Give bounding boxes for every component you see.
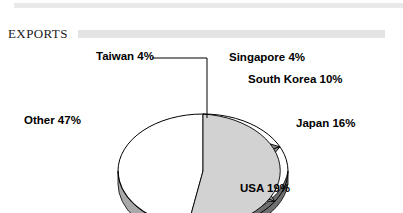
- leader-line-taiwan: [152, 58, 207, 118]
- slice-label-taiwan: Taiwan 4%: [96, 51, 154, 63]
- slice-label-other: Other 47%: [24, 115, 81, 127]
- page-title: EXPORTS: [8, 26, 68, 42]
- pie-top-face: [187, 114, 280, 213]
- heading-rule: [78, 30, 385, 38]
- slice-label-south-korea: South Korea 10%: [248, 74, 343, 86]
- slice-label-usa: USA 19%: [240, 183, 290, 195]
- pie-chart: Taiwan 4% Singapore 4% South Korea 10% J…: [0, 44, 403, 213]
- side-other: [118, 171, 178, 213]
- top-decorative-band: [14, 3, 403, 8]
- slice-label-japan: Japan 16%: [296, 118, 355, 130]
- chart-page: EXPORTS: [0, 0, 403, 213]
- slice-other: [187, 114, 280, 213]
- slice-label-singapore: Singapore 4%: [229, 52, 305, 64]
